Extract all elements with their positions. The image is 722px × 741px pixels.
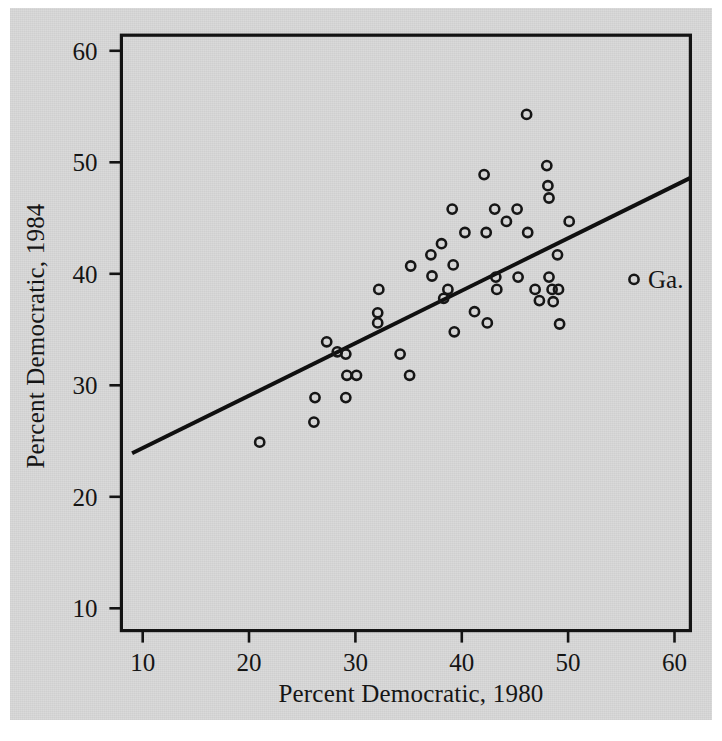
figure-container: 102030405060 102030405060 Ga. Percent De… (0, 0, 722, 741)
scatter-point (542, 161, 551, 170)
plot-frame-rect (121, 35, 690, 630)
plot-frame (121, 35, 690, 630)
x-tick-label: 60 (662, 649, 687, 676)
scatter-point (470, 307, 479, 316)
y-tick-label: 40 (72, 261, 97, 288)
scatter-point (544, 273, 553, 282)
x-axis-title: Percent Democratic, 1980 (278, 680, 543, 707)
scatter-point (523, 228, 532, 237)
scatter-point (322, 337, 331, 346)
data-points (255, 110, 639, 447)
y-tick-label: 20 (72, 484, 97, 511)
scatter-point (549, 297, 558, 306)
scatter-point (480, 170, 489, 179)
scatter-point (522, 110, 531, 119)
scatter-point (513, 205, 522, 214)
x-axis-ticks (143, 631, 675, 643)
scatter-point (426, 250, 435, 259)
x-tick-label: 40 (449, 649, 474, 676)
scatter-point (427, 271, 436, 280)
scatter-point (565, 217, 574, 226)
y-axis-ticks (109, 51, 121, 609)
scatter-point (514, 273, 523, 282)
scatter-point (554, 285, 563, 294)
fit-line-group (132, 178, 690, 453)
scatter-point (482, 228, 491, 237)
x-tick-label: 10 (130, 649, 155, 676)
scatter-point (553, 250, 562, 259)
scatter-point (255, 438, 264, 447)
x-axis-tick-labels: 102030405060 (130, 649, 687, 676)
scatter-point (543, 181, 552, 190)
scatter-point (405, 371, 414, 380)
scatter-point (492, 285, 501, 294)
scatter-point (342, 371, 351, 380)
scatter-point (437, 239, 446, 248)
scatter-point (544, 193, 553, 202)
scatter-point (531, 285, 540, 294)
x-tick-label: 50 (556, 649, 581, 676)
scatter-point (450, 327, 459, 336)
y-tick-label: 30 (72, 372, 97, 399)
scatter-point (443, 285, 452, 294)
scatter-point (352, 371, 361, 380)
y-tick-label: 10 (72, 595, 97, 622)
scatter-point (535, 296, 544, 305)
scatter-point (341, 393, 350, 402)
point-annotations: Ga. (648, 266, 683, 293)
scatter-point (448, 205, 457, 214)
scatter-plot: 102030405060 102030405060 Ga. Percent De… (0, 0, 722, 741)
y-axis-tick-labels: 102030405060 (72, 38, 97, 623)
scatter-point (374, 285, 383, 294)
y-tick-label: 60 (72, 38, 97, 65)
scatter-point (310, 393, 319, 402)
y-tick-label: 50 (72, 149, 97, 176)
y-axis-title: Percent Democratic, 1984 (22, 203, 49, 468)
scatter-point (460, 228, 469, 237)
scatter-point (502, 217, 511, 226)
scatter-point (483, 318, 492, 327)
scatter-point (373, 308, 382, 317)
x-tick-label: 20 (237, 649, 262, 676)
scatter-point (555, 319, 564, 328)
scatter-point (373, 318, 382, 327)
scatter-point (406, 261, 415, 270)
scatter-point (449, 260, 458, 269)
scatter-point (629, 275, 638, 284)
regression-line (132, 178, 690, 453)
point-label-ga: Ga. (648, 266, 683, 293)
scatter-point (490, 205, 499, 214)
scatter-point (396, 350, 405, 359)
scatter-point (309, 418, 318, 427)
x-tick-label: 30 (343, 649, 368, 676)
